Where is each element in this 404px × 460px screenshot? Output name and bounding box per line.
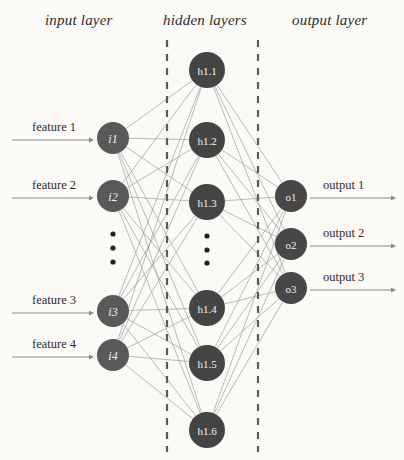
node-h1_5[interactable]: h1.5	[189, 345, 225, 381]
node-label-h1_3: h1.3	[197, 197, 217, 209]
node-o1[interactable]: o1	[275, 180, 307, 212]
node-i2[interactable]: i2	[97, 180, 129, 212]
node-label-o1: o1	[286, 191, 297, 203]
node-i1[interactable]: i1	[97, 122, 129, 154]
feature-label-1: feature 1	[32, 120, 76, 135]
hidden-layer-header: hidden layers	[163, 12, 247, 29]
edge-group-input-to-hidden	[118, 81, 202, 419]
output-arrow-1	[310, 195, 396, 200]
input-arrow-3	[12, 310, 94, 315]
input-arrow-1	[12, 137, 94, 142]
input-arrow-2	[12, 195, 94, 200]
node-i3[interactable]: i3	[97, 295, 129, 327]
node-label-i3: i3	[108, 305, 117, 319]
node-h1_1[interactable]: h1.1	[189, 52, 225, 88]
node-o2[interactable]: o2	[275, 228, 307, 260]
output-arrow-3	[310, 287, 396, 292]
node-h1_3[interactable]: h1.3	[189, 184, 225, 220]
node-label-i4: i4	[108, 349, 117, 363]
node-label-h1_4: h1.4	[197, 303, 217, 315]
node-label-o2: o2	[286, 239, 297, 251]
output-arrow-2	[310, 243, 396, 248]
node-label-i1: i1	[108, 132, 117, 146]
output-layer-header: output layer	[292, 12, 367, 29]
input-ellipsis-dot-3	[110, 259, 115, 264]
output-label-2: output 2	[323, 226, 364, 241]
hidden-ellipsis-dot-1	[204, 233, 209, 238]
feature-label-4: feature 4	[32, 337, 76, 352]
output-label-1: output 1	[323, 178, 364, 193]
io-arrows	[12, 137, 396, 359]
node-label-i2: i2	[108, 190, 117, 204]
node-label-h1_1: h1.1	[197, 65, 216, 77]
node-group: i1i2i3i4h1.1h1.2h1.3h1.4h1.5h1.6o1o2o3	[97, 52, 307, 448]
output-label-3: output 3	[323, 270, 364, 285]
input-arrow-4	[12, 354, 94, 359]
neural-network-diagram: i1i2i3i4h1.1h1.2h1.3h1.4h1.5h1.6o1o2o3 i…	[0, 0, 404, 460]
feature-label-2: feature 2	[32, 178, 76, 193]
node-label-h1_2: h1.2	[197, 135, 216, 147]
input-ellipsis-dot-1	[110, 231, 115, 236]
node-o3[interactable]: o3	[275, 272, 307, 304]
node-h1_4[interactable]: h1.4	[189, 290, 225, 326]
node-label-o3: o3	[286, 283, 298, 295]
ellipsis-group	[110, 231, 209, 265]
node-h1_2[interactable]: h1.2	[189, 122, 225, 158]
node-h1_6[interactable]: h1.6	[189, 412, 225, 448]
input-ellipsis-dot-2	[110, 245, 115, 250]
hidden-layer-dividers	[167, 40, 258, 452]
hidden-ellipsis-dot-3	[204, 260, 209, 265]
feature-label-3: feature 3	[32, 293, 76, 308]
input-layer-header: input layer	[45, 12, 113, 29]
node-label-h1_6: h1.6	[197, 425, 217, 437]
node-i4[interactable]: i4	[97, 339, 129, 371]
hidden-ellipsis-dot-2	[204, 247, 209, 252]
node-label-h1_5: h1.5	[197, 358, 217, 370]
